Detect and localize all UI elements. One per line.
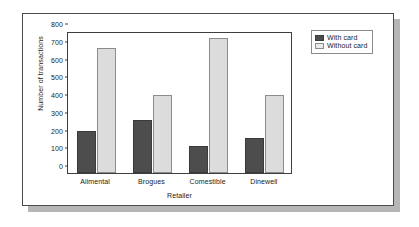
legend-swatch-with-card xyxy=(315,35,324,41)
bar-group xyxy=(245,33,284,173)
y-axis-tick-label: 400 xyxy=(51,92,65,99)
y-axis-tick-mark xyxy=(65,59,68,60)
y-axis-tick: 400 xyxy=(51,92,68,99)
y-axis-tick-mark xyxy=(65,148,68,149)
y-axis-title: Number of transactions xyxy=(37,3,44,145)
y-axis-tick: 100 xyxy=(51,145,68,152)
y-axis-tick-label: 300 xyxy=(51,109,65,116)
bar-chart: Number of transactions 01002003004005006… xyxy=(23,14,395,207)
bar-group xyxy=(189,33,228,173)
x-axis-tick-label: Comestible xyxy=(190,178,226,185)
x-axis-tick-label: Brogues xyxy=(138,178,165,185)
y-axis-tick-label: 100 xyxy=(51,145,65,152)
x-axis-tick-label: Dinewell xyxy=(250,178,277,185)
y-axis-tick: 0 xyxy=(59,163,68,170)
legend-item-with-card: With card xyxy=(315,34,368,41)
bar-without-card xyxy=(209,38,228,173)
y-axis-tick: 500 xyxy=(51,74,68,81)
y-axis-tick-mark xyxy=(65,77,68,78)
y-axis-tick: 800 xyxy=(51,21,68,28)
bar-without-card xyxy=(265,95,284,173)
x-axis-title: Retailer xyxy=(67,192,292,199)
bar-with-card xyxy=(77,131,96,173)
y-axis-tick-label: 200 xyxy=(51,127,65,134)
figure-card: Number of transactions 01002003004005006… xyxy=(22,13,394,206)
y-axis-tick: 200 xyxy=(51,127,68,134)
y-axis-tick-label: 500 xyxy=(51,74,65,81)
y-axis-tick-mark xyxy=(65,166,68,167)
bar-group xyxy=(133,33,172,173)
bar-with-card xyxy=(189,146,208,173)
y-axis-tick-mark xyxy=(65,130,68,131)
y-axis-tick-label: 600 xyxy=(51,56,65,63)
y-axis-tick: 700 xyxy=(51,38,68,45)
bar-with-card xyxy=(133,120,152,173)
y-axis-tick-mark xyxy=(65,41,68,42)
bar-with-card xyxy=(245,138,264,173)
y-axis-tick-mark xyxy=(65,24,68,25)
y-axis-tick: 600 xyxy=(51,56,68,63)
bar-without-card xyxy=(153,95,172,173)
y-axis-tick-mark xyxy=(65,95,68,96)
y-axis-tick-mark xyxy=(65,112,68,113)
legend-label-with-card: With card xyxy=(327,34,357,41)
x-axis-tick-label: Alimental xyxy=(80,178,110,185)
y-axis-tick-label: 700 xyxy=(51,38,65,45)
legend-swatch-without-card xyxy=(315,43,324,49)
chart-legend: With card Without card xyxy=(311,30,373,54)
y-axis-tick-label: 800 xyxy=(51,21,65,28)
bar-group xyxy=(77,33,116,173)
legend-item-without-card: Without card xyxy=(315,42,368,49)
plot-area: 0100200300400500600700800 xyxy=(67,32,292,174)
bar-without-card xyxy=(97,48,116,173)
legend-label-without-card: Without card xyxy=(327,42,368,49)
y-axis-tick: 300 xyxy=(51,109,68,116)
